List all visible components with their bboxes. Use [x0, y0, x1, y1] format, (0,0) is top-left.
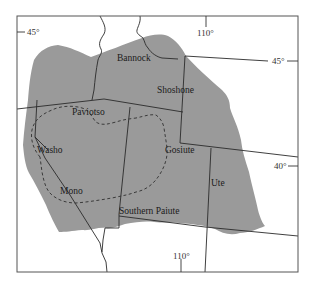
great-basin-tribes-map: 45° 110° 45° 40° 110° Bannock Shoshone P… — [0, 0, 309, 284]
tribe-label-ute: Ute — [211, 178, 225, 188]
state-border-nevada-arizona — [102, 228, 119, 252]
tribe-label-bannock: Bannock — [117, 53, 151, 63]
tribe-label-gosiute: Gosiute — [165, 145, 195, 155]
tribal-territory-region — [23, 35, 265, 235]
tribe-label-southern-paiute: Southern Paiute — [119, 206, 179, 216]
tribe-label-shoshone: Shoshone — [157, 85, 194, 95]
tribe-label-mono: Mono — [60, 186, 83, 196]
tribe-label-washo: Washo — [37, 145, 63, 155]
coord-label-110-bottom: 110° — [173, 251, 190, 261]
coord-label-40-right: 40° — [274, 161, 287, 171]
state-border-montana — [185, 56, 268, 61]
coord-label-45-right: 45° — [272, 56, 285, 66]
coord-label-110-top: 110° — [197, 28, 214, 38]
coord-label-45-left: 45° — [27, 27, 40, 37]
tribe-label-paviotso: Paviotso — [72, 107, 105, 117]
